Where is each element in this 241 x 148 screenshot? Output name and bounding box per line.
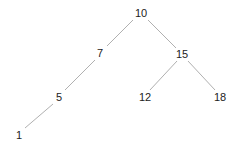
tree-node-1: 1: [16, 129, 22, 141]
tree-node-12: 12: [139, 91, 151, 103]
tree-node-18: 18: [214, 91, 226, 103]
tree-node-5: 5: [56, 91, 62, 103]
tree-node-10: 10: [135, 7, 147, 19]
tree-edges: [0, 0, 241, 148]
edge-10-7: [107, 20, 133, 46]
edge-15-18: [188, 61, 215, 90]
tree-node-7: 7: [97, 47, 103, 59]
edge-15-12: [150, 61, 177, 90]
edge-5-1: [25, 104, 53, 128]
edge-7-5: [65, 60, 95, 90]
tree-node-15: 15: [176, 48, 188, 60]
edge-10-15: [148, 20, 176, 48]
